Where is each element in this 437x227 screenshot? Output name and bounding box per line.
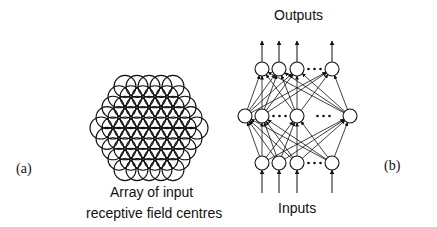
output-node [255, 62, 269, 76]
ellipsis-dot [307, 162, 310, 165]
ellipsis-dot [328, 115, 331, 118]
diagram-canvas [0, 0, 437, 227]
input-node [290, 156, 304, 170]
ellipsis-dot [307, 68, 310, 71]
ellipsis-dot [319, 68, 322, 71]
input-node [272, 156, 286, 170]
connection-edge [302, 74, 345, 112]
inputs-label: Inputs [278, 200, 316, 216]
connection-edge [250, 74, 292, 112]
connection-edge [250, 121, 292, 159]
panel-a-caption-line2: receptive field centres [86, 205, 222, 221]
ellipsis-dot [316, 115, 319, 118]
ellipsis-dot [319, 162, 322, 165]
ellipsis-dot [322, 115, 325, 118]
network-nodes [238, 62, 357, 170]
receptive-field-hex-array [90, 75, 208, 180]
ellipsis-dot [272, 115, 275, 118]
hidden-node [238, 109, 252, 123]
ellipsis-dot [284, 115, 287, 118]
outputs-label: Outputs [274, 7, 323, 23]
hidden-node [343, 109, 357, 123]
ellipsis-dot [278, 115, 281, 118]
output-node [272, 62, 286, 76]
panel-b-label: (b) [384, 158, 400, 174]
output-node [290, 62, 304, 76]
panel-a-label: (a) [16, 161, 32, 177]
panel-a-caption-line1: Array of input [110, 184, 193, 200]
connection-edge [302, 121, 345, 159]
input-node [255, 156, 269, 170]
hidden-node [290, 109, 304, 123]
input-node [325, 156, 339, 170]
ellipsis-dot [313, 162, 316, 165]
hidden-node [255, 109, 269, 123]
ellipsis-dot [313, 68, 316, 71]
output-node [325, 62, 339, 76]
